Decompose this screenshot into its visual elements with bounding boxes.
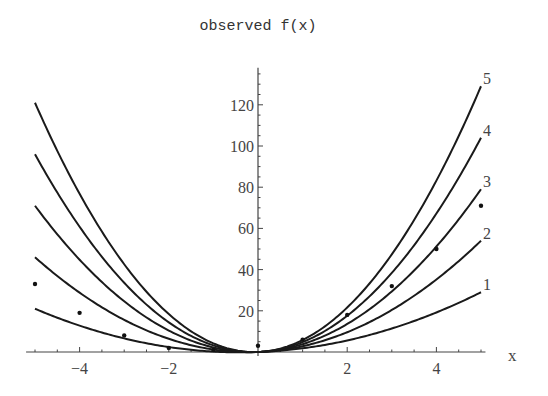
data-point	[345, 313, 349, 317]
data-point	[300, 337, 304, 341]
data-point	[122, 333, 126, 337]
x-tick-label: 4	[432, 360, 440, 377]
data-point	[33, 282, 37, 286]
y-tick-label: 100	[230, 138, 254, 155]
curve-label-5: 5	[483, 70, 491, 87]
data-point	[211, 348, 215, 352]
data-point	[256, 344, 260, 348]
data-point	[167, 346, 171, 350]
chart: observed f(x) −4−22420406080100120 12345…	[0, 0, 548, 396]
y-tick-label: 40	[238, 262, 254, 279]
data-point	[77, 311, 81, 315]
data-point	[390, 284, 394, 288]
y-tick-label: 120	[230, 97, 254, 114]
curve-labels: 12345	[483, 70, 491, 293]
data-point	[479, 204, 483, 208]
x-tick-label: 2	[343, 360, 351, 377]
curve-label-3: 3	[483, 173, 491, 190]
curve-label-2: 2	[483, 225, 491, 242]
curve-label-4: 4	[483, 122, 491, 139]
y-tick-label: 60	[238, 220, 254, 237]
x-tick-label: −2	[160, 360, 177, 377]
x-tick-label: −4	[71, 360, 88, 377]
x-axis-label: x	[508, 346, 517, 365]
curve-label-1: 1	[483, 276, 491, 293]
y-tick-label: 20	[238, 303, 254, 320]
y-tick-label: 80	[238, 179, 254, 196]
chart-title: observed f(x)	[199, 18, 316, 35]
data-point	[434, 247, 438, 251]
